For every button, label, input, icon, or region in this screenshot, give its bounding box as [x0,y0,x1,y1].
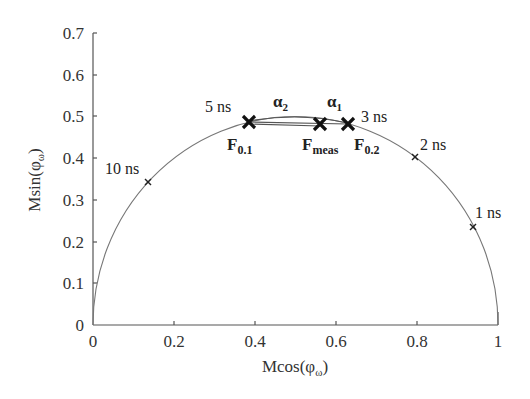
svg-text:0.2: 0.2 [63,233,84,252]
svg-text:10 ns: 10 ns [105,160,139,177]
svg-text:5 ns: 5 ns [205,98,231,115]
svg-text:0.4: 0.4 [63,149,85,168]
alpha2-label: α2 [273,92,289,113]
svg-text:0.2: 0.2 [163,332,184,351]
x-axis-title: Mcos(φω) [262,357,328,378]
axes [93,33,498,325]
f02-label: F0.2 [354,135,379,157]
fmeas-label: Fmeas [302,135,339,157]
y-axis-title: Msin(φω) [25,148,46,211]
svg-text:0.7: 0.7 [63,24,85,43]
marker-10ns [145,179,151,185]
svg-text:0.6: 0.6 [325,332,346,351]
y-tick-labels: 0 0.1 0.2 0.3 0.4 0.5 0.6 0.7 [63,24,85,335]
svg-text:2 ns: 2 ns [420,136,446,153]
svg-text:0: 0 [76,316,85,335]
svg-text:0.3: 0.3 [63,191,84,210]
svg-text:0.1: 0.1 [63,274,84,293]
svg-text:1 ns: 1 ns [475,204,501,221]
alpha1-label: α1 [327,92,342,113]
svg-text:0.4: 0.4 [244,332,266,351]
svg-text:1: 1 [494,332,503,351]
x-tick-labels: 0 0.2 0.4 0.6 0.8 1 [89,332,503,351]
svg-text:0: 0 [89,332,98,351]
chord-lines [249,117,348,126]
marker-2ns [412,154,418,160]
svg-text:0.6: 0.6 [63,66,84,85]
phasor-plot: 0 0.1 0.2 0.3 0.4 0.5 0.6 0.7 0 0.2 0.4 … [0,0,530,399]
svg-text:0.8: 0.8 [406,332,427,351]
f01-label: F0.1 [227,135,252,157]
svg-text:3 ns: 3 ns [361,108,387,125]
svg-text:0.5: 0.5 [63,107,84,126]
